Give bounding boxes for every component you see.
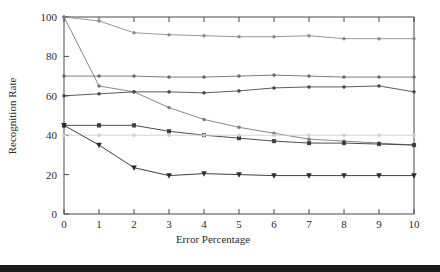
x-tick-label: 2 xyxy=(131,218,137,230)
chart-canvas: 012345678910020406080100 Error Percentag… xyxy=(0,0,440,250)
x-tick-label: 8 xyxy=(341,218,347,230)
x-tick-label: 3 xyxy=(166,218,172,230)
tick-label-group: 012345678910020406080100 xyxy=(41,11,421,230)
series-series-6-flat-forty xyxy=(63,134,416,137)
x-tick-label: 1 xyxy=(96,218,102,230)
y-tick-label: 20 xyxy=(46,169,58,181)
y-tick-label: 100 xyxy=(41,11,58,23)
y-tick-label: 0 xyxy=(52,208,58,220)
series-series-7-steep-to-twenty xyxy=(62,123,417,178)
x-tick-label: 7 xyxy=(306,218,312,230)
x-tick-label: 5 xyxy=(236,218,242,230)
figure-root: 012345678910020406080100 Error Percentag… xyxy=(0,0,440,272)
x-tick-label: 10 xyxy=(409,218,421,230)
bottom-rule-bar xyxy=(0,265,440,272)
x-tick-label: 0 xyxy=(61,218,67,230)
series-series-4-sixty-rising xyxy=(63,84,416,97)
y-tick-label: 40 xyxy=(46,129,58,141)
x-tick-label: 4 xyxy=(201,218,207,230)
line-chart-svg: 012345678910020406080100 Error Percentag… xyxy=(0,0,440,250)
series-series-3-flat-seventy xyxy=(63,74,416,79)
x-axis-title: Error Percentage xyxy=(176,233,250,245)
x-tick-label: 6 xyxy=(271,218,277,230)
axis-ticks xyxy=(64,17,414,214)
x-tick-label: 9 xyxy=(376,218,382,230)
y-tick-label: 80 xyxy=(46,50,58,62)
y-tick-label: 60 xyxy=(46,90,58,102)
data-series-group xyxy=(62,16,417,179)
plot-frame xyxy=(64,17,414,214)
y-axis-title: Recognition Rate xyxy=(6,78,18,155)
